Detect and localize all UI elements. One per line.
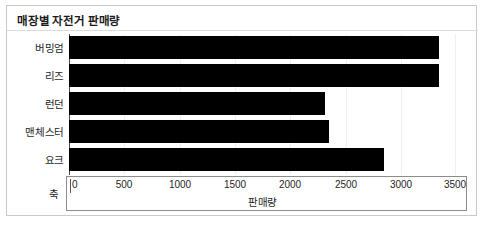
chart-plot[interactable]: 버밍엄 리즈 런던 맨체스터 요크 축 0 500 1000 1500 2000… <box>7 6 478 217</box>
xtick-label-3000: 3000 <box>390 179 412 190</box>
xtick-label-2500: 2500 <box>335 179 357 190</box>
plot-area <box>69 34 456 175</box>
gridline-3500 <box>455 34 456 175</box>
category-label-leeds: 리즈 <box>45 68 64 83</box>
axis-corner-label: 축 <box>7 186 59 201</box>
bar-london[interactable] <box>69 92 325 115</box>
xtick-label-1000: 1000 <box>169 179 191 190</box>
category-label-birmingham: 버밍엄 <box>35 40 64 55</box>
category-label-manchester: 맨체스터 <box>25 124 64 139</box>
xtick-label-3500: 3500 <box>444 179 466 190</box>
xtick-label-0: 0 <box>72 179 78 190</box>
bar-birmingham[interactable] <box>69 36 439 59</box>
bar-manchester[interactable] <box>69 120 329 143</box>
xtick-label-1500: 1500 <box>224 179 246 190</box>
bar-leeds[interactable] <box>69 64 439 87</box>
xtick-label-2000: 2000 <box>279 179 301 190</box>
category-label-london: 런던 <box>45 96 64 111</box>
category-axis[interactable]: 버밍엄 리즈 런던 맨체스터 요크 <box>7 34 64 204</box>
bar-york[interactable] <box>69 148 384 171</box>
chart-frame[interactable]: 매장별 자전거 판매량 <box>6 5 477 216</box>
x-axis-title: 판매량 <box>69 194 456 209</box>
axis-origin-tick <box>70 179 71 193</box>
xtick-label-500: 500 <box>116 179 133 190</box>
category-label-york: 요크 <box>45 152 64 167</box>
